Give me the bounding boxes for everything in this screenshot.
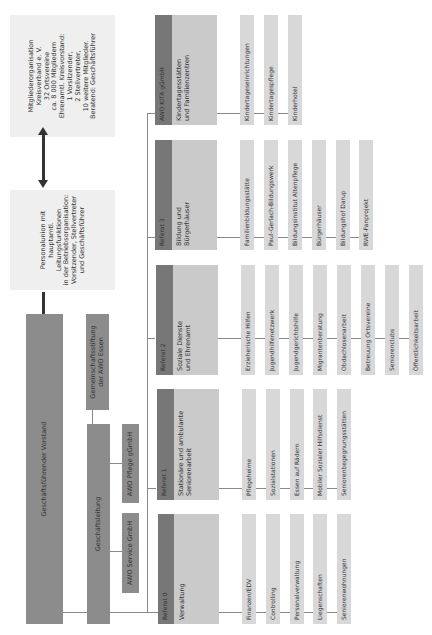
item-label: Sozialstationen — [269, 450, 277, 496]
connector-line — [147, 612, 158, 613]
management-box: Geschäftsleitung — [87, 424, 110, 624]
connector-line — [147, 338, 155, 339]
executive-board-label: Geschäftsführender Vorstand — [41, 421, 49, 516]
community-foundation-label: Gemeinschaftsstiftung der AWO Essen — [90, 325, 106, 398]
item-box: Familienbildungsstätte — [240, 140, 254, 250]
division-tag-label: Referat 3 — [158, 218, 166, 246]
division-title: Soziale Dienste und Ehrenamt — [176, 321, 192, 371]
division-tag-label: Referat 0 — [161, 592, 169, 620]
text-line: Beratend: Geschäftsführer — [90, 33, 98, 119]
item-label: Liegenschaften — [316, 574, 324, 620]
item-box: Obdachlosenarbeit — [337, 265, 351, 375]
membership-organization-text: Mitgliederorganisation Kreisverband e. V… — [27, 33, 97, 119]
item-box: Finanzen/EDV — [242, 514, 256, 624]
awo-service-label: AWO Service GmbH — [127, 521, 135, 585]
text-line: Kreisverband e. V. — [35, 33, 43, 119]
item-label: Bildungsinstitut Altenpflege — [291, 163, 299, 246]
division-title: Kindertagesstätten und Familienzentren — [175, 55, 191, 121]
text-line: Seniorenarbeit — [185, 411, 193, 496]
item-box: Migrantenberatung — [313, 265, 327, 375]
item-label: Personalverwaltung — [293, 561, 301, 620]
text-line: 2 Stellvertreter, — [74, 33, 82, 119]
text-line: Bürgerhäuser — [183, 202, 191, 246]
division-tag: Referat 2 — [156, 265, 173, 375]
item-box: Seniorenbegegnungsstätten — [337, 389, 351, 500]
item-box: Essen auf Rädern — [290, 389, 304, 500]
division-tag: Referat 3 — [155, 140, 172, 250]
connector-line — [219, 612, 347, 613]
division-referat-3: Referat 3 Bildung und Bürgerhäuser — [155, 140, 217, 250]
division-referat-1: Referat 1 Stationäre und ambulante Senio… — [157, 389, 219, 500]
item-label: Seniorenbegegnungsstätten — [340, 411, 348, 496]
connector-line — [147, 237, 155, 238]
connector-line — [147, 113, 155, 114]
division-tag-label: AWO KITA gGmbH — [158, 67, 166, 121]
item-box: Seniorenclubs — [385, 265, 399, 375]
item-label: Kinderhotel — [291, 87, 299, 121]
item-label: Seniorenwohnungen — [340, 558, 348, 620]
item-box: Pflegeheime — [242, 389, 256, 500]
text-line: hauptamtl. — [47, 195, 55, 285]
item-label: Jugendgerichtshilfe — [292, 313, 300, 371]
item-box: Erzieherische Hilfen — [241, 265, 255, 375]
division-referat-0: Referat 0 Verwaltung — [158, 514, 219, 624]
item-box: Bildungsinstitut Altenpflege — [288, 140, 302, 250]
item-box: Controlling — [266, 514, 280, 624]
item-box: Mobiler Sozialer Hilfsdienst — [313, 389, 327, 500]
text-line: Stationäre und ambulante — [177, 411, 185, 496]
item-label: Paul-Gerlach-Bildungswerk — [267, 166, 275, 246]
connector-line — [110, 463, 122, 464]
item-label: Seniorenclubs — [388, 329, 396, 371]
connector-line — [92, 410, 93, 424]
text-line: Bildung und — [175, 202, 183, 246]
text-line: Kindertagesstätten — [175, 55, 183, 121]
connector-line — [110, 551, 122, 552]
item-box: Sozialstationen — [266, 389, 280, 500]
item-box: Personalverwaltung — [290, 514, 304, 624]
item-label: Betreuung Ortsvereine — [364, 303, 372, 371]
item-label: Kindertageseinrichtungen — [243, 43, 251, 121]
item-box: Jugendgerichtshilfe — [289, 265, 303, 375]
item-label: Bürgerhäuser — [315, 205, 323, 246]
division-referat-2: Referat 2 Soziale Dienste und Ehrenamt — [156, 265, 218, 375]
division-tag-label: Referat 2 — [159, 343, 167, 371]
executive-board-box: Geschäftsführender Vorstand — [26, 314, 63, 624]
item-label: Pflegeheime — [245, 459, 253, 496]
text-line: und Geschäftsführer — [78, 195, 86, 285]
text-line: der AWO Essen — [98, 325, 106, 398]
text-line: und Ehrenamt — [184, 321, 192, 371]
division-tag-label: Referat 1 — [160, 468, 168, 496]
item-box: Kinderhotel — [288, 15, 302, 125]
item-box: Betreuung Ortsvereine — [361, 265, 375, 375]
personal-union-text: Personalunion mit hauptamtl. Leitungsfun… — [39, 195, 86, 285]
item-box: Kindertagespflege — [264, 15, 278, 125]
awo-care-box: AWO Pflege gGmbH — [122, 424, 139, 503]
item-box: RWE-Fanprojekt — [359, 140, 373, 250]
management-label: Geschäftsleitung — [95, 497, 103, 552]
text-line: und Familienzentren — [183, 55, 191, 121]
text-line: Soziale Dienste — [176, 321, 184, 371]
item-label: Familienbildungsstätte — [243, 178, 251, 246]
division-title: Bildung und Bürgerhäuser — [175, 202, 191, 246]
item-box: Liegenschaften — [313, 514, 327, 624]
item-label: Kindertagespflege — [267, 66, 275, 121]
item-label: Jugendhilfenetzwerk — [268, 310, 276, 371]
item-label: Bildungshof Darup — [339, 190, 347, 246]
item-box: Bürgerhäuser — [312, 140, 326, 250]
division-tag: AWO KITA gGmbH — [155, 15, 172, 125]
item-label: Öffentlichkeitsarbeit — [412, 310, 420, 371]
item-label: Finanzen/EDV — [245, 579, 253, 620]
item-box: Kindertageseinrichtungen — [240, 15, 254, 125]
item-box: Öffentlichkeitsarbeit — [409, 265, 423, 375]
membership-organization-box: Mitgliederorganisation Kreisverband e. V… — [10, 15, 115, 137]
connector-spine — [147, 113, 148, 613]
awo-service-box: AWO Service GmbH — [122, 513, 139, 593]
division-tag: Referat 0 — [158, 514, 174, 624]
division-tag: Referat 1 — [157, 389, 174, 500]
item-box: Paul-Gerlach-Bildungswerk — [264, 140, 278, 250]
connector-line — [63, 612, 147, 613]
community-foundation-box: Gemeinschaftsstiftung der AWO Essen — [86, 314, 109, 410]
connector-line — [147, 488, 156, 489]
item-label: Obdachlosenarbeit — [340, 314, 348, 371]
item-box: Bildungshof Darup — [336, 140, 350, 250]
